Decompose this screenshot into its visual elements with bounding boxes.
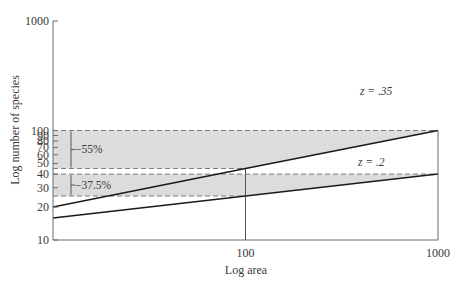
y-tick-label-20: 20 (37, 200, 49, 214)
x-axis-title: Log area (225, 263, 268, 277)
x-tick-label-100: 100 (237, 246, 255, 260)
band-percent-label-1: −55% (75, 143, 103, 155)
y-axis-title: Log number of species (8, 75, 22, 185)
series-label-2: z = .2 (357, 156, 385, 168)
y-tick-label-1000: 1000 (25, 14, 49, 28)
series-label-1: z = .35 (359, 85, 393, 97)
y-tick-label-30: 30 (37, 181, 49, 195)
x-tick-label-1000: 1000 (426, 246, 450, 260)
y-tick-label-10: 10 (37, 233, 49, 247)
band-percent-label-2: −37.5% (75, 179, 112, 191)
y-tick-label-40: 40 (37, 167, 49, 181)
species-area-chart: −55%−37.5%z = .35z = .210001009080706050… (0, 0, 458, 282)
